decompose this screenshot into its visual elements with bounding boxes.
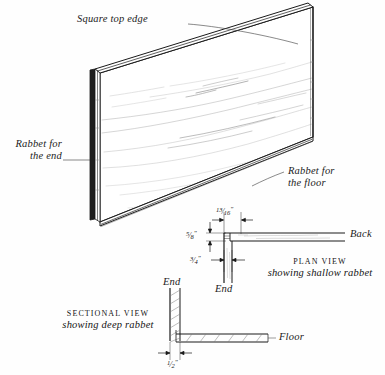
label-rabbet-for-end-line1: Rabbet for [15, 138, 62, 149]
figure-canvas: Square top edge Rabbet for the end Rabbe… [0, 0, 385, 375]
label-square-top-edge: Square top edge [77, 13, 148, 25]
plan-view-subtitle: showing shallow rabbet [256, 267, 384, 279]
label-rabbet-for-end: Rabbet for the end [0, 138, 62, 162]
leader-rabbet-floor [252, 172, 284, 186]
plan-view-title: PLAN VIEW [256, 256, 384, 267]
sectional-view-title: SECTIONAL VIEW [44, 308, 172, 319]
label-plan-end: End [215, 283, 233, 295]
dimension-label-5-8: 5⁄8 " [186, 229, 197, 240]
label-sect-end: End [163, 276, 181, 288]
dim-34-denominator: 4 [195, 258, 198, 265]
plan-view-caption: PLAN VIEW showing shallow rabbet [256, 256, 384, 279]
back-board-drawing [63, 3, 313, 227]
dim-12-unit: " [175, 358, 178, 366]
dim-1316-unit: " [230, 205, 233, 213]
dim-34-unit: " [198, 254, 201, 262]
sect-floor-hatch [186, 334, 262, 342]
label-rabbet-for-end-line2: the end [30, 150, 62, 161]
dim-1316-denominator: 16 [224, 209, 231, 216]
dimension-label-13-16: 13⁄16 " [216, 205, 233, 216]
dimension-label-1-2: 1⁄2 " [167, 358, 178, 369]
dimension-label-3-4: 3⁄4 " [190, 254, 201, 265]
left-end-rabbet-band [90, 69, 95, 220]
label-plan-back: Back [350, 228, 372, 240]
label-rabbet-for-floor: Rabbet for the floor [288, 165, 335, 189]
label-rabbet-for-floor-line1: Rabbet for [288, 165, 335, 176]
plan-end-grain [227, 248, 230, 279]
plan-back-grain [238, 235, 330, 239]
dim-58-unit: " [194, 229, 197, 237]
dim-12-arrows [158, 351, 192, 354]
label-rabbet-for-floor-line2: the floor [288, 177, 326, 188]
dim-12-denominator: 2 [172, 362, 175, 369]
sectional-view-subtitle: showing deep rabbet [44, 319, 172, 331]
sectional-view-drawing [158, 288, 276, 360]
dim-58-denominator: 8 [191, 233, 194, 240]
label-sect-floor: Floor [279, 331, 304, 343]
dim-1316-arrows [212, 218, 253, 221]
dim-58-arrows [208, 222, 211, 252]
sectional-view-caption: SECTIONAL VIEW showing deep rabbet [44, 308, 172, 331]
dim-34-arrows [211, 258, 245, 261]
